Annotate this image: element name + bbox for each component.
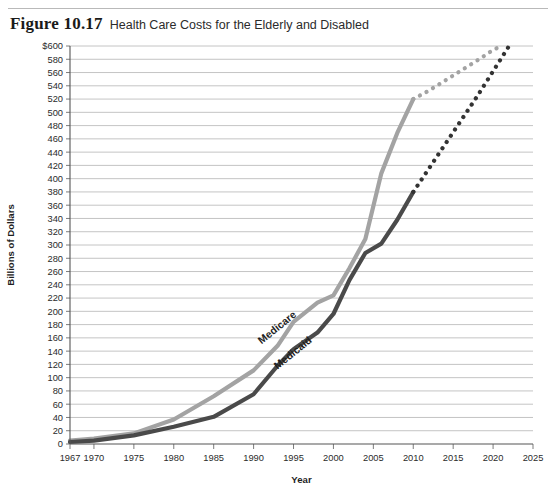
x-tick-label: 1995: [283, 453, 304, 463]
figure-container: Figure 10.17Health Care Costs for the El…: [0, 0, 556, 499]
y-tick-label: 540: [47, 81, 63, 91]
figure-number: Figure 10.17: [10, 14, 103, 33]
x-tick-label: 2015: [443, 453, 464, 463]
x-tick-label: 2000: [323, 453, 344, 463]
chart-area: 0204060801001201401601802002202402602803…: [0, 36, 556, 499]
y-axis-title: Billions of Dollars: [5, 204, 16, 286]
series-line-medicare: [70, 99, 413, 441]
y-tick-label: 560: [47, 68, 63, 78]
y-axis-ticks-group: 0204060801001201401601802002202402602803…: [42, 41, 70, 449]
x-tick-label: 2020: [483, 453, 504, 463]
y-tick-label: $600: [42, 41, 63, 51]
series-label-medicaid: Medicaid: [271, 334, 313, 372]
y-tick-label: 480: [47, 121, 63, 131]
x-tick-label: 2005: [363, 453, 384, 463]
y-tick-label: 340: [47, 214, 63, 224]
y-tick-label: 240: [47, 280, 63, 290]
x-tick-label: 1967: [60, 453, 81, 463]
x-axis-title: Year: [291, 474, 312, 485]
y-tick-label: 120: [47, 360, 63, 370]
x-tick-label: 2010: [403, 453, 424, 463]
y-tick-label: 60: [53, 400, 63, 410]
y-tick-label: 160: [47, 333, 63, 343]
figure-title: Health Care Costs for the Elderly and Di…: [110, 18, 369, 32]
x-tick-label: 2025: [523, 453, 544, 463]
y-tick-label: 380: [47, 187, 63, 197]
y-tick-label: 420: [47, 161, 63, 171]
y-tick-label: 280: [47, 254, 63, 264]
y-tick-label: 360: [47, 201, 63, 211]
y-tick-label: 180: [47, 320, 63, 330]
y-tick-label: 520: [47, 94, 63, 104]
y-tick-label: 440: [47, 148, 63, 158]
y-tick-label: 400: [47, 174, 63, 184]
x-tick-label: 1985: [203, 453, 224, 463]
x-tick-label: 1990: [243, 453, 264, 463]
y-tick-label: 320: [47, 227, 63, 237]
figure-caption: Figure 10.17Health Care Costs for the El…: [10, 14, 369, 34]
y-tick-label: 140: [47, 347, 63, 357]
y-tick-label: 580: [47, 55, 63, 65]
line-chart: 0204060801001201401601802002202402602803…: [0, 36, 556, 499]
x-tick-label: 1970: [84, 453, 105, 463]
y-tick-label: 200: [47, 307, 63, 317]
data-series-group: [70, 46, 509, 442]
y-tick-label: 300: [47, 240, 63, 250]
y-tick-label: 460: [47, 134, 63, 144]
y-tick-label: 500: [47, 108, 63, 118]
y-tick-label: 0: [58, 439, 63, 449]
y-tick-label: 100: [47, 373, 63, 383]
x-tick-label: 1980: [163, 453, 184, 463]
series-projection-medicaid: [413, 46, 509, 192]
y-tick-label: 80: [53, 386, 63, 396]
y-tick-label: 260: [47, 267, 63, 277]
header-divider: [8, 8, 548, 9]
y-tick-label: 220: [47, 293, 63, 303]
y-tick-label: 40: [53, 413, 63, 423]
x-axis-ticks-group: 1967197019751980198519901995200020052010…: [60, 444, 544, 463]
y-tick-label: 20: [53, 426, 63, 436]
x-tick-label: 1975: [124, 453, 145, 463]
gridlines-group: [70, 46, 533, 431]
